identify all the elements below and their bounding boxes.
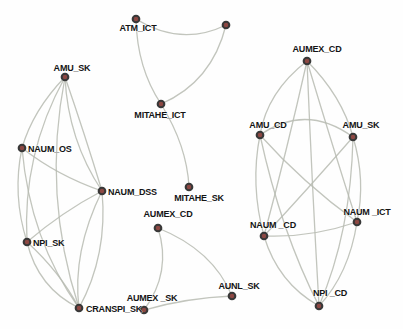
labels-layer: ATM_ICTMITAHE_ICTMITAHE_SKAMU_SKNAUM_OSN… — [28, 23, 391, 314]
graph-edge-naum_dss--cranspi_sk — [79, 191, 103, 308]
graph-node-npi_sk[interactable] — [24, 239, 31, 246]
graph-node-naum_cd[interactable] — [261, 233, 268, 240]
graph-node-label-amu_sk_l: AMU_SK — [54, 63, 92, 73]
graph-node-label-npi_cd: NPI _CD — [313, 288, 348, 298]
graph-edge-amu_sk_l--naum_dss — [65, 77, 102, 191]
graph-edge-npi_sk--cranspi_sk — [27, 242, 79, 308]
graph-node-label-cranspi_sk: CRANSPI_SK — [86, 304, 143, 314]
graph-node-label-aumex_sk: AUMEX _SK — [127, 293, 178, 303]
graph-node-label-aumex_cd_r: AUMEX_CD — [293, 44, 343, 54]
graph-edge-unnamed_top--mitahe_ict — [161, 25, 226, 104]
graph-node-label-aunl_sk: AUNL_SK — [218, 281, 260, 291]
graph-node-mitahe_sk[interactable] — [186, 184, 193, 191]
graph-canvas[interactable]: ATM_ICTMITAHE_ICTMITAHE_SKAMU_SKNAUM_OSN… — [0, 0, 403, 329]
graph-edge-npi_sk--cranspi_sk — [27, 242, 79, 308]
graph-node-atm_ict[interactable] — [133, 16, 140, 23]
network-diagram: ATM_ICTMITAHE_ICTMITAHE_SKAMU_SKNAUM_OSN… — [0, 0, 403, 329]
graph-edge-aumex_cd_r--naum_cd — [264, 61, 307, 236]
graph-node-label-atm_ict: ATM_ICT — [120, 23, 158, 33]
graph-node-cranspi_sk[interactable] — [76, 305, 83, 312]
graph-node-aunl_sk[interactable] — [229, 293, 236, 300]
graph-edge-naum_os--npi_sk — [18, 148, 27, 242]
graph-node-label-mitahe_sk: MITAHE_SK — [174, 193, 224, 203]
graph-node-aumex_cd_r[interactable] — [304, 58, 311, 65]
graph-edge-amu_sk_l--naum_os — [22, 77, 65, 148]
graph-node-label-naum_cd: NAUM _CD — [250, 220, 297, 230]
graph-node-naum_os[interactable] — [19, 145, 26, 152]
graph-node-label-naum_ict: NAUM _ICT — [343, 207, 391, 217]
graph-node-amu_sk_l[interactable] — [62, 74, 69, 81]
nodes-layer — [19, 16, 361, 314]
graph-node-label-amu_cd: AMU_CD — [249, 120, 287, 130]
graph-edge-amu_sk_l--cranspi_sk — [56, 77, 79, 308]
graph-edge-naum_dss--cranspi_sk — [78, 191, 102, 308]
graph-node-label-amu_sk_r: AMU_SK — [343, 120, 381, 130]
graph-node-npi_cd[interactable] — [316, 303, 323, 310]
graph-node-aumex_cd_m[interactable] — [155, 225, 162, 232]
graph-node-label-npi_sk: NPI_SK — [33, 238, 65, 248]
graph-edge-amu_sk_r--npi_cd — [319, 137, 353, 306]
graph-node-label-aumex_cd_m: AUMEX_CD — [144, 209, 194, 219]
graph-node-unnamed_top[interactable] — [223, 22, 230, 29]
graph-edge-naum_cd--npi_cd — [264, 236, 319, 306]
graph-node-label-naum_os: NAUM_OS — [28, 144, 72, 154]
graph-node-naum_ict[interactable] — [354, 219, 361, 226]
graph-node-amu_cd[interactable] — [257, 132, 264, 139]
graph-node-naum_dss[interactable] — [99, 188, 106, 195]
graph-node-mitahe_ict[interactable] — [158, 101, 165, 108]
graph-node-label-naum_dss: NAUM_DSS — [108, 187, 157, 197]
graph-node-amu_sk_r[interactable] — [350, 134, 357, 141]
graph-node-label-mitahe_ict: MITAHE_ICT — [134, 110, 186, 120]
